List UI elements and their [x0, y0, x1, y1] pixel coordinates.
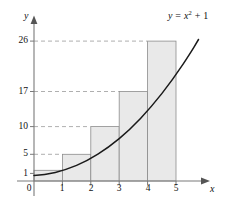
bar-interval-4-5	[148, 41, 176, 181]
y-tick-label-10: 10	[5, 121, 28, 131]
x-tick-label-2: 2	[84, 183, 98, 193]
x-axis-arrowhead	[201, 178, 210, 185]
riemann-bars	[34, 41, 176, 181]
y-axis-label: y	[24, 10, 28, 21]
x-tick-label-3: 3	[112, 183, 126, 193]
y-tick-label-5: 5	[8, 148, 28, 158]
y-axis-arrowhead	[31, 16, 38, 25]
curve-equation-label: y = x2 + 1	[168, 9, 208, 21]
y-tick-label-17: 17	[5, 86, 28, 96]
curve-label-equals: =	[173, 10, 184, 21]
bar-interval-3-4	[119, 92, 147, 182]
x-tick-label-4: 4	[141, 183, 155, 193]
y-tick-label-1: 1	[8, 168, 28, 178]
x-tick-label-1: 1	[55, 183, 69, 193]
x-tick-label-0: 0	[22, 183, 36, 193]
x-tick-label-5: 5	[169, 183, 183, 193]
plot-canvas	[0, 0, 231, 207]
curve-label-tail: + 1	[192, 10, 208, 21]
y-tick-marks	[30, 41, 34, 173]
bar-interval-1-2	[62, 154, 90, 181]
bar-interval-2-3	[91, 127, 119, 181]
x-axis-label: x	[210, 183, 214, 194]
riemann-sum-figure: y x 0 1 2 3 4 5 1 5 10 17 26 y = x2 + 1	[0, 0, 231, 207]
y-tick-label-26: 26	[5, 35, 28, 45]
